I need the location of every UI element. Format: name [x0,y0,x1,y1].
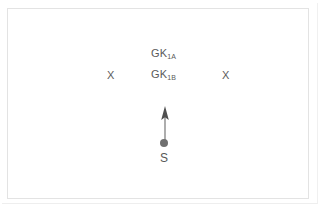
label-gk1a-subscript: 1A [167,53,176,60]
x-marker-right: X [222,70,229,81]
label-gk1b-base: GK [151,68,167,80]
figure-frame: GK1A GK1B X X S [7,8,309,199]
x-marker-left: X [107,70,114,81]
up-arrow-icon [154,105,176,141]
diagram-canvas: GK1A GK1B X X S [8,9,308,198]
source-label: S [160,152,168,164]
source-point-dot [160,139,168,147]
label-gk1b-subscript: 1B [167,74,176,81]
label-gk1a: GK1A [151,48,176,59]
label-gk1b: GK1B [151,69,176,80]
label-gk1a-base: GK [151,47,167,59]
figure-screenshot: GK1A GK1B X X S [0,0,323,214]
